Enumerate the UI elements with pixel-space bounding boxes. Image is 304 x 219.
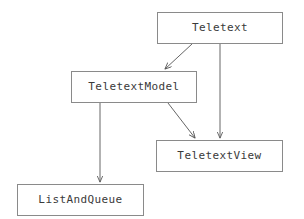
node-teletext-view-label: TeletextView <box>177 150 261 162</box>
edge-teletextmodel-to-teletextview <box>168 103 195 138</box>
node-teletext-model-label: TeletextModel <box>88 81 179 93</box>
node-teletext[interactable]: Teletext <box>157 12 283 44</box>
edge-teletext-to-teletextmodel <box>165 44 192 69</box>
node-teletext-model[interactable]: TeletextModel <box>71 71 197 103</box>
node-list-and-queue[interactable]: ListAndQueue <box>17 184 144 216</box>
node-list-and-queue-label: ListAndQueue <box>38 194 122 206</box>
node-teletext-label: Teletext <box>192 22 248 34</box>
class-diagram-canvas: Teletext TeletextModel TeletextView List… <box>0 0 304 219</box>
node-teletext-view[interactable]: TeletextView <box>156 140 283 172</box>
